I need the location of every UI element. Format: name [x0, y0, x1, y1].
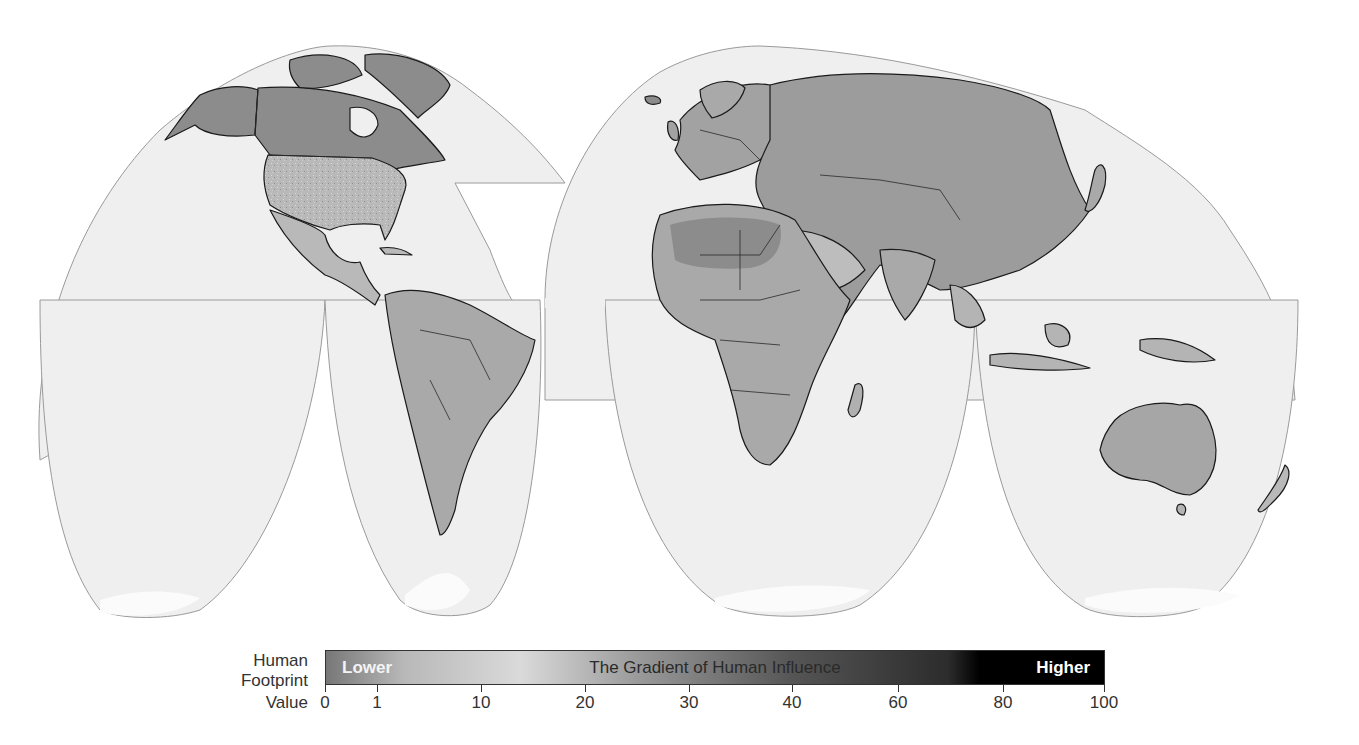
iceland: [645, 96, 661, 104]
world-map: [0, 0, 1359, 745]
alaska: [165, 87, 258, 140]
tasmania: [1177, 504, 1186, 515]
sahara: [670, 218, 781, 269]
lobe-south-pacific: [40, 300, 325, 618]
